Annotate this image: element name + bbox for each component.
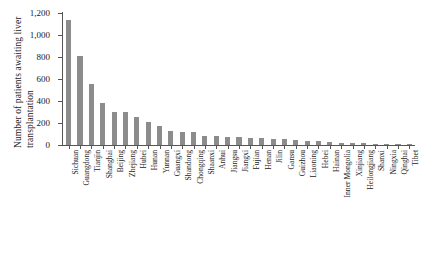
x-tick-mark bbox=[398, 146, 399, 149]
x-tick-mark bbox=[194, 146, 195, 149]
bar bbox=[168, 131, 173, 145]
bar bbox=[77, 56, 82, 145]
x-tick-mark bbox=[69, 146, 70, 149]
x-tick-mark bbox=[114, 146, 115, 149]
x-tick-mark bbox=[80, 146, 81, 149]
x-tick-label: Yunnan bbox=[163, 150, 171, 173]
bar bbox=[350, 143, 355, 145]
x-tick-mark bbox=[273, 146, 274, 149]
x-tick-label: Hunan bbox=[151, 150, 159, 170]
x-tick-label: Shandong bbox=[185, 150, 193, 180]
bar bbox=[225, 137, 230, 145]
bar bbox=[146, 122, 151, 145]
bar bbox=[180, 132, 185, 145]
bar bbox=[395, 144, 400, 145]
bar bbox=[134, 117, 139, 145]
y-tick-label: 600 bbox=[37, 74, 51, 84]
y-tick-mark bbox=[58, 35, 62, 36]
x-tick-label: Fujian bbox=[253, 150, 261, 169]
x-tick-label: Shanxi bbox=[378, 150, 386, 171]
x-tick-mark bbox=[318, 146, 319, 149]
bar bbox=[271, 139, 276, 145]
x-tick-mark bbox=[239, 146, 240, 149]
x-tick-mark bbox=[125, 146, 126, 149]
x-tick-mark bbox=[364, 146, 365, 149]
bar bbox=[214, 136, 219, 145]
y-tick-label: 400 bbox=[37, 96, 51, 106]
x-tick-label: Xinjiang bbox=[356, 150, 364, 177]
y-axis-title-line-1: Number of patients awaiting liver bbox=[13, 16, 23, 148]
bar bbox=[123, 112, 128, 145]
x-tick-label: Inner Mongolia bbox=[344, 150, 352, 197]
x-tick-label: Shanghai bbox=[106, 150, 114, 178]
y-axis-title: Number of patients awaiting liver transp… bbox=[0, 0, 34, 150]
x-tick-label: Guizhou bbox=[299, 150, 307, 176]
x-tick-label: Hainan bbox=[333, 150, 341, 172]
x-tick-mark bbox=[205, 146, 206, 149]
bar bbox=[293, 140, 298, 145]
bar bbox=[316, 141, 321, 145]
x-tick-label: Jiangsu bbox=[231, 150, 239, 173]
x-tick-mark bbox=[148, 146, 149, 149]
x-tick-label: Zhejiang bbox=[129, 150, 137, 177]
y-tick-mark bbox=[58, 123, 62, 124]
x-tick-label: Shaanxi bbox=[208, 150, 216, 174]
y-tick-mark bbox=[58, 101, 62, 102]
bar bbox=[89, 84, 94, 145]
x-tick-mark bbox=[103, 146, 104, 149]
bar bbox=[327, 142, 332, 145]
x-tick-mark bbox=[216, 146, 217, 149]
bar bbox=[202, 136, 207, 145]
x-tick-label: Guangdong bbox=[83, 150, 91, 185]
y-tick-mark bbox=[58, 13, 62, 14]
x-tick-label: Beijing bbox=[117, 150, 125, 172]
bar bbox=[157, 126, 162, 145]
plot-area bbox=[63, 13, 415, 145]
x-tick-mark bbox=[91, 146, 92, 149]
y-tick-mark bbox=[58, 79, 62, 80]
x-tick-label: Guangxi bbox=[174, 150, 182, 176]
x-axis-tick-labels: SichuanGuangdongTianjinShanghaiBeijingZh… bbox=[63, 150, 415, 258]
x-tick-label: Ningxia bbox=[390, 150, 398, 174]
x-tick-mark bbox=[375, 146, 376, 149]
bar bbox=[339, 143, 344, 145]
x-tick-label: Henan bbox=[265, 150, 273, 170]
y-tick-label: 0 bbox=[46, 140, 51, 150]
x-tick-label: Gansu bbox=[288, 150, 296, 169]
y-tick-mark bbox=[58, 145, 62, 146]
x-tick-label: Liaoning bbox=[310, 150, 318, 177]
x-tick-mark bbox=[353, 146, 354, 149]
bar-chart-figure: Number of patients awaiting liver transp… bbox=[0, 0, 424, 259]
bar bbox=[361, 143, 366, 145]
x-tick-label: Hebei bbox=[322, 150, 330, 168]
x-tick-mark bbox=[137, 146, 138, 149]
x-tick-mark bbox=[250, 146, 251, 149]
y-tick-label: 800 bbox=[37, 52, 51, 62]
x-tick-label: Qinghai bbox=[401, 150, 409, 174]
y-tick-label: 200 bbox=[37, 118, 51, 128]
x-tick-mark bbox=[284, 146, 285, 149]
x-tick-mark bbox=[296, 146, 297, 149]
x-tick-mark bbox=[330, 146, 331, 149]
x-tick-label: Tibet bbox=[412, 150, 420, 166]
bar bbox=[191, 132, 196, 145]
x-tick-label: Sichuan bbox=[72, 150, 80, 174]
bar bbox=[259, 138, 264, 145]
bar bbox=[282, 139, 287, 145]
x-tick-label: Hubei bbox=[140, 150, 148, 169]
x-tick-mark bbox=[341, 146, 342, 149]
x-tick-mark bbox=[387, 146, 388, 149]
bar bbox=[384, 144, 389, 145]
x-tick-label: Tianjin bbox=[94, 150, 102, 172]
bar bbox=[236, 137, 241, 145]
x-tick-mark bbox=[171, 146, 172, 149]
x-tick-label: Jilin bbox=[276, 150, 284, 163]
bar bbox=[112, 112, 117, 145]
x-tick-label: Heilongjiang bbox=[367, 150, 375, 190]
bar bbox=[100, 103, 105, 145]
x-tick-label: Anhui bbox=[219, 150, 227, 169]
y-tick-label: 1,200 bbox=[30, 8, 50, 18]
x-tick-label: Chongqing bbox=[197, 150, 205, 184]
bar bbox=[373, 144, 378, 145]
x-tick-mark bbox=[262, 146, 263, 149]
